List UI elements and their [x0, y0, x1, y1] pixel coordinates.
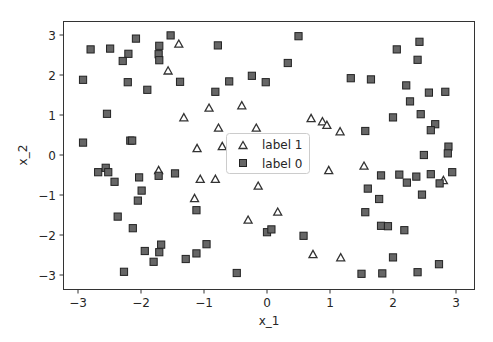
- y-tick-label: 0: [48, 149, 56, 163]
- square-marker: [111, 178, 118, 185]
- square-marker: [427, 171, 434, 178]
- square-marker: [362, 209, 369, 216]
- x-axis-label: x_1: [259, 314, 280, 328]
- legend: label 1 label 0: [227, 134, 310, 174]
- square-marker: [212, 88, 219, 95]
- square-marker: [300, 232, 307, 239]
- square-marker: [167, 32, 174, 39]
- square-marker: [417, 111, 424, 118]
- x-tick-label: 1: [326, 296, 334, 310]
- square-marker: [103, 110, 110, 117]
- square-marker: [435, 261, 442, 268]
- square-marker: [87, 46, 94, 53]
- square-marker: [418, 191, 425, 198]
- square-marker: [79, 139, 86, 146]
- y-tick-label: −1: [38, 189, 56, 203]
- x-axis-ticks: −3−2−10123: [69, 290, 460, 311]
- x-tick-label: −3: [69, 296, 87, 310]
- x-tick-label: 3: [452, 296, 460, 310]
- x-tick-label: 0: [263, 296, 271, 310]
- square-marker: [416, 38, 423, 45]
- square-marker: [124, 79, 131, 86]
- x-tick-label: −1: [195, 296, 213, 310]
- square-marker: [377, 172, 384, 179]
- square-marker: [436, 180, 443, 187]
- y-axis-ticks: −3−2−10123: [38, 29, 63, 283]
- square-marker: [158, 241, 165, 248]
- square-marker: [156, 249, 163, 256]
- square-marker: [445, 143, 452, 150]
- square-marker: [79, 76, 86, 83]
- square-marker: [414, 56, 421, 63]
- square-marker: [442, 88, 449, 95]
- square-marker: [384, 223, 391, 230]
- square-marker: [268, 226, 275, 233]
- square-marker: [389, 254, 396, 261]
- square-marker: [134, 197, 141, 204]
- square-marker: [120, 268, 127, 275]
- square-marker: [403, 179, 410, 186]
- square-marker: [119, 57, 126, 64]
- scatter-chart: −3−2−10123 −3−2−10123 x_1 x_2 label 1 la…: [0, 0, 493, 342]
- square-marker: [406, 98, 413, 105]
- square-marker: [389, 114, 396, 121]
- square-marker: [362, 127, 369, 134]
- square-marker: [129, 225, 136, 232]
- square-marker: [284, 59, 291, 66]
- square-marker: [414, 269, 421, 276]
- square-marker: [449, 169, 456, 176]
- y-axis-label: x_2: [16, 145, 30, 166]
- square-marker: [364, 185, 371, 192]
- square-marker: [203, 241, 210, 248]
- square-marker: [444, 150, 451, 157]
- square-marker: [295, 33, 302, 40]
- square-marker: [132, 35, 139, 42]
- square-marker: [176, 78, 183, 85]
- legend-label-1: label 1: [262, 138, 302, 152]
- square-marker: [226, 78, 233, 85]
- square-marker: [420, 151, 427, 158]
- square-marker: [150, 258, 157, 265]
- square-marker: [376, 195, 383, 202]
- square-marker: [156, 42, 163, 49]
- square-marker: [393, 46, 400, 53]
- square-marker: [182, 255, 189, 262]
- square-marker: [114, 213, 121, 220]
- square-marker: [105, 169, 112, 176]
- square-marker: [377, 222, 384, 229]
- square-marker: [413, 173, 420, 180]
- square-marker: [171, 170, 178, 177]
- square-marker: [367, 76, 374, 83]
- square-marker: [248, 72, 255, 79]
- square-marker: [233, 269, 240, 276]
- square-marker: [156, 57, 163, 64]
- y-tick-label: −2: [38, 229, 56, 243]
- y-tick-label: 1: [48, 109, 56, 123]
- legend-label-0: label 0: [262, 157, 302, 171]
- square-marker: [425, 89, 432, 96]
- square-marker: [193, 250, 200, 257]
- y-tick-label: −3: [38, 269, 56, 283]
- x-tick-label: −2: [132, 296, 150, 310]
- square-marker: [379, 270, 386, 277]
- square-marker: [138, 187, 145, 194]
- y-tick-label: 3: [48, 29, 56, 43]
- square-marker: [427, 127, 434, 134]
- square-marker: [396, 171, 403, 178]
- square-marker: [125, 50, 132, 57]
- square-marker: [129, 137, 136, 144]
- x-tick-label: 2: [389, 296, 397, 310]
- square-marker: [193, 207, 200, 214]
- square-icon: [240, 160, 247, 167]
- square-marker: [95, 169, 102, 176]
- square-marker: [141, 247, 148, 254]
- square-marker: [347, 75, 354, 82]
- square-marker: [403, 82, 410, 89]
- square-marker: [107, 45, 114, 52]
- square-marker: [358, 270, 365, 277]
- square-marker: [262, 79, 269, 86]
- y-tick-label: 2: [48, 69, 56, 83]
- square-marker: [214, 42, 221, 49]
- square-marker: [136, 174, 143, 181]
- square-marker: [144, 86, 151, 93]
